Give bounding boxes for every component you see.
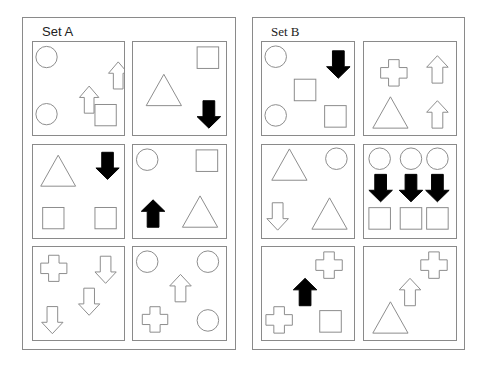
arrow-down-icon [369,174,392,201]
triangle-shape [272,149,307,180]
set-b-title: Set B [271,24,300,40]
cross-shape [421,252,447,278]
circle-shape [265,46,287,68]
panel-figure [33,145,124,238]
arrow-up-icon [399,278,421,305]
panel-figure [262,247,354,340]
arrow-down-icon [267,203,289,230]
set-b-panel-5 [261,246,355,341]
circle-shape [265,105,287,127]
triangle-shape [146,74,181,105]
arrow-down-icon [42,307,63,334]
set-b-panel-1 [261,41,355,136]
square-shape [325,106,347,128]
square-shape [196,150,218,172]
arrow-down-icon [197,101,220,128]
triangle-shape [312,198,347,229]
circle-shape [326,148,348,170]
circle-shape [197,251,219,273]
triangle-shape [373,97,408,128]
circle-shape [427,148,449,170]
panel-figure [364,145,456,238]
square-shape [95,207,116,228]
circle-shape [369,148,391,170]
arrow-down-icon [327,51,350,78]
cross-shape [316,252,342,278]
panel-figure [133,42,226,135]
square-shape [427,208,449,230]
square-shape [369,208,391,230]
circle-shape [400,148,422,170]
set-a-panel-6 [132,246,227,341]
panel-figure [33,247,124,340]
square-shape [43,207,64,228]
arrow-down-icon [426,174,449,201]
circle-shape [197,310,219,332]
set-a-panel-1 [32,41,125,136]
panel-figure [364,247,456,340]
arrow-down-icon [96,152,119,179]
arrow-down-icon [95,256,116,283]
square-shape [95,104,116,125]
panel-figure [262,42,354,135]
set-a-panel-4 [132,144,227,239]
square-shape [400,208,422,230]
set-a-title: Set A [42,24,73,39]
panel-figure [262,145,354,238]
arrow-down-icon [399,174,422,201]
cross-shape [266,307,292,333]
cross-shape [142,307,167,332]
arrow-up-icon [141,200,164,227]
set-a-panel-2 [132,41,227,136]
triangle-shape [373,302,408,333]
panel-figure [133,145,226,238]
arrow-up-icon [170,274,192,301]
square-shape [197,47,219,69]
set-b-panel-2 [363,41,457,136]
square-shape [320,311,342,333]
circle-shape [136,149,158,171]
arrow-up-icon [109,62,124,89]
arrow-down-icon [79,288,100,315]
square-shape [294,79,316,101]
set-a-panel-5 [32,246,125,341]
arrow-up-icon [79,86,98,113]
circle-shape [36,46,57,67]
panel-figure [133,247,226,340]
cross-shape [41,255,67,281]
circle-shape [136,251,158,273]
triangle-shape [41,155,76,186]
set-b-panel-3 [261,144,355,239]
set-a-panel-3 [32,144,125,239]
panel-figure [364,42,456,135]
cross-shape [381,60,407,86]
circle-shape [36,104,57,125]
arrow-up-icon [293,278,316,305]
set-b-panel-4 [363,144,457,239]
arrow-up-icon [427,56,449,83]
set-b-panel-6 [363,246,457,341]
panel-figure [33,42,124,135]
triangle-shape [182,196,217,227]
arrow-up-icon [427,101,449,128]
